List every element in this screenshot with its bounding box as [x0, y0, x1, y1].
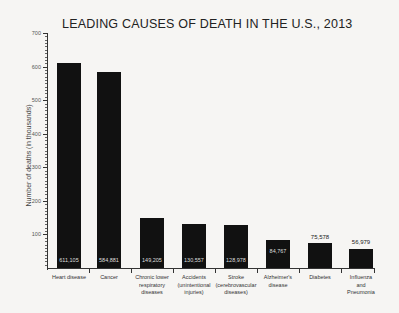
y-minor-tick [45, 147, 47, 148]
bar-value-label: 56,979 [349, 239, 373, 245]
bar-cancer [97, 72, 121, 268]
y-minor-tick [45, 90, 47, 91]
y-minor-tick [45, 60, 47, 61]
y-minor-tick [45, 120, 47, 121]
x-category-label: Cancer [87, 274, 131, 282]
y-tick-label: 200 [17, 198, 41, 204]
y-minor-tick [45, 181, 47, 182]
y-minor-tick [45, 77, 47, 78]
y-minor-tick [45, 224, 47, 225]
y-minor-tick [45, 144, 47, 145]
y-minor-tick [45, 110, 47, 111]
bar-value-label: 611,105 [57, 257, 81, 263]
y-tick [43, 201, 47, 202]
y-minor-tick [45, 265, 47, 266]
y-minor-tick [45, 151, 47, 152]
y-minor-tick [45, 248, 47, 249]
bar-alzheimers [266, 240, 290, 268]
y-minor-tick [45, 46, 47, 47]
y-minor-tick [45, 127, 47, 128]
y-minor-tick [45, 258, 47, 259]
y-minor-tick [45, 214, 47, 215]
plot-area: 700 600 500 400 300 200 100 611,105 584,… [47, 33, 377, 268]
x-tick [341, 268, 342, 273]
y-minor-tick [45, 107, 47, 108]
y-minor-tick [45, 50, 47, 51]
bar-value-label: 84,767 [266, 248, 290, 254]
y-minor-tick [45, 187, 47, 188]
y-minor-tick [45, 194, 47, 195]
y-minor-tick [45, 53, 47, 54]
x-category-label: Accidents(unintentionalinjuries) [172, 274, 216, 297]
y-minor-tick [45, 97, 47, 98]
x-category-label: Diabetes [298, 274, 342, 282]
y-minor-tick [45, 221, 47, 222]
bar-heart-disease [57, 63, 81, 268]
y-minor-tick [45, 117, 47, 118]
y-minor-tick [45, 164, 47, 165]
x-tick [173, 268, 174, 273]
y-minor-tick [45, 255, 47, 256]
y-tick [43, 100, 47, 101]
y-minor-tick [45, 57, 47, 58]
x-category-label: Chronic lowerrespiratorydiseases [130, 274, 174, 297]
y-minor-tick [45, 130, 47, 131]
y-minor-tick [45, 63, 47, 64]
y-minor-tick [45, 70, 47, 71]
y-minor-tick [45, 245, 47, 246]
y-tick-label: 100 [17, 231, 41, 237]
y-minor-tick [45, 137, 47, 138]
y-tick [43, 167, 47, 168]
y-minor-tick [45, 191, 47, 192]
y-axis [47, 33, 48, 270]
bar-diabetes [308, 243, 332, 268]
y-minor-tick [45, 171, 47, 172]
y-minor-tick [45, 104, 47, 105]
x-axis [47, 268, 375, 269]
y-minor-tick [45, 231, 47, 232]
y-minor-tick [45, 83, 47, 84]
y-tick-label: 600 [17, 64, 41, 70]
y-minor-tick [45, 124, 47, 125]
x-tick [374, 268, 375, 273]
y-tick-label: 700 [17, 30, 41, 36]
bar-value-label: 130,557 [182, 257, 206, 263]
y-minor-tick [45, 241, 47, 242]
x-tick [131, 268, 132, 273]
y-minor-tick [45, 80, 47, 81]
chart-title: LEADING CAUSES OF DEATH IN THE U.S., 201… [62, 17, 352, 31]
y-tick [43, 134, 47, 135]
bar-influenza-pneumonia [349, 249, 373, 268]
x-tick [299, 268, 300, 273]
x-category-label: Stroke(cerebrovasculardiseases) [214, 274, 258, 297]
y-minor-tick [45, 218, 47, 219]
y-minor-tick [45, 87, 47, 88]
bar-value-label: 75,578 [308, 234, 332, 240]
bar-value-label: 584,881 [97, 257, 121, 263]
y-minor-tick [45, 228, 47, 229]
y-minor-tick [45, 93, 47, 94]
y-minor-tick [45, 174, 47, 175]
y-minor-tick [45, 208, 47, 209]
x-tick [215, 268, 216, 273]
y-tick [43, 234, 47, 235]
x-category-label: Heart disease [47, 274, 91, 282]
y-minor-tick [45, 73, 47, 74]
y-minor-tick [45, 154, 47, 155]
y-minor-tick [45, 40, 47, 41]
bar-value-label: 149,205 [140, 257, 164, 263]
x-tick [89, 268, 90, 273]
y-minor-tick [45, 261, 47, 262]
y-tick [43, 67, 47, 68]
y-minor-tick [45, 211, 47, 212]
y-minor-tick [45, 184, 47, 185]
y-minor-tick [45, 198, 47, 199]
x-category-label: Alzheimer'sdisease [256, 274, 300, 289]
y-minor-tick [45, 238, 47, 239]
y-minor-tick [45, 157, 47, 158]
y-minor-tick [45, 204, 47, 205]
y-tick-label: 500 [17, 97, 41, 103]
y-minor-tick [45, 43, 47, 44]
y-tick-label: 400 [17, 131, 41, 137]
y-minor-tick [45, 177, 47, 178]
